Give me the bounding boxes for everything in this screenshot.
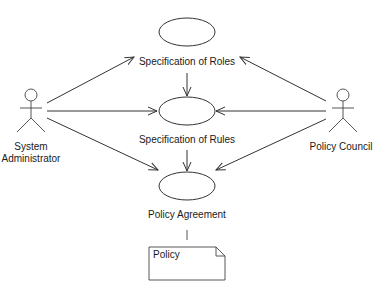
actor-label: Policy Council <box>310 141 373 152</box>
use-case-label: Specification of Roles <box>139 56 235 67</box>
use-case-diagram: System Administrator Policy Council Spec… <box>0 0 374 290</box>
use-case-label: Specification of Rules <box>139 134 235 145</box>
use-case-ellipse <box>159 172 215 200</box>
use-case-label: Policy Agreement <box>148 209 226 220</box>
stick-figure-icon <box>17 89 45 132</box>
note-policy[interactable]: Policy <box>149 247 225 280</box>
stick-figure-icon <box>329 89 357 132</box>
actor-label: Administrator <box>2 153 62 164</box>
actor-policy-council[interactable]: Policy Council <box>310 89 373 152</box>
note-label: Policy <box>153 249 180 260</box>
actor-label: System <box>14 141 47 152</box>
arrow-sysadmin-to-roles <box>47 57 134 103</box>
use-case-ellipse <box>159 97 215 125</box>
use-case-specification-of-rules[interactable]: Specification of Rules <box>139 97 235 145</box>
use-case-ellipse <box>159 18 215 46</box>
use-case-policy-agreement[interactable]: Policy Agreement <box>148 172 226 220</box>
arrow-council-to-roles <box>240 57 326 101</box>
use-case-specification-of-roles[interactable]: Specification of Roles <box>139 18 235 67</box>
